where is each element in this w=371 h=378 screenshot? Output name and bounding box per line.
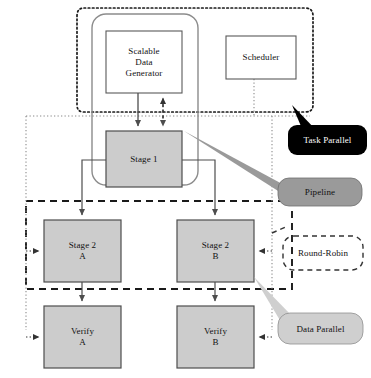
node-verify-a-shape (44, 306, 121, 368)
diagram-canvas (0, 0, 371, 378)
node-scalable-data-generator-shape (106, 31, 182, 93)
parallelism-diagram: Scalable Data Generator Scheduler Stage … (0, 0, 371, 378)
node-stage-2-b-shape (177, 220, 254, 282)
node-verify-b-shape (177, 306, 254, 368)
edge-stage1-to-stage2a (82, 160, 106, 215)
callout-round-robin-shape (272, 226, 363, 270)
node-scheduler-shape (226, 36, 296, 79)
node-stage-1-shape (106, 131, 182, 187)
node-stage-2-a-shape (44, 220, 121, 282)
callout-data-parallel-shape (254, 277, 363, 344)
